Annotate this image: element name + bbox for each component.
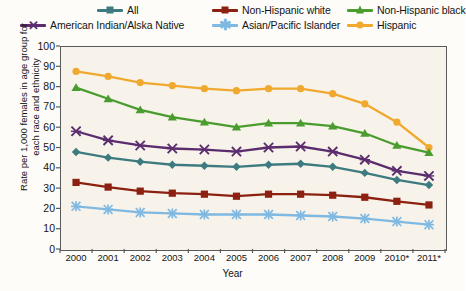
x-axis-tick-labels: 2000200120022003200420052006200720082009…	[0, 252, 465, 268]
y-tick-label: 40	[43, 162, 55, 173]
series-non-hispanic-black	[71, 83, 433, 156]
series-all	[72, 148, 433, 189]
y-tick-label: 60	[43, 122, 55, 133]
y-tick-label: 80	[43, 81, 55, 92]
x-tick-label: 2011*	[409, 252, 449, 264]
series-american-indian-alska-native	[71, 127, 434, 181]
x-axis-title: Year	[0, 268, 465, 279]
y-tick-label: 90	[43, 61, 55, 72]
y-tick-label: 10	[43, 223, 55, 234]
y-tick-label: 20	[43, 203, 55, 214]
y-tick-label: 50	[43, 142, 55, 153]
y-tick-label: 70	[43, 101, 55, 112]
y-axis-title: Rate per 1,000 females in age group for …	[18, 17, 42, 197]
y-tick-label: 30	[43, 183, 55, 194]
series-asian-pacific-islander	[71, 201, 434, 229]
series-non-hispanic-white	[72, 179, 432, 209]
